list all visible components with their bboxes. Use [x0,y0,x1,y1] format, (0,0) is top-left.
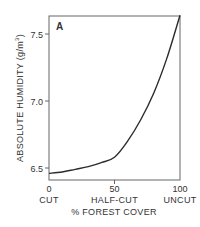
y-axis-label-close: ) [15,34,25,37]
y-tick-label: 7.0 [30,97,43,107]
x-axis-ticks: 0CUT50HALF-CUT100UNCUT [39,180,196,205]
plot-frame [49,16,180,180]
y-axis-ticks: 6.57.07.5 [30,30,49,174]
y-axis-label: ABSOLUTE HUMIDITY (g/m3) [14,34,25,162]
y-axis-label-main: ABSOLUTE HUMIDITY (g/m [15,41,25,162]
x-tick-sublabel: CUT [39,195,59,205]
x-tick-sublabel: HALF-CUT [91,195,138,205]
x-tick-sublabel: UNCUT [164,195,197,205]
x-tick-label: 50 [109,184,119,194]
x-tick-label: 0 [46,184,51,194]
humidity-curve [49,15,180,173]
y-tick-label: 7.5 [30,30,43,40]
x-axis-label: % FOREST COVER [71,207,157,217]
chart: A 6.57.07.5 0CUT50HALF-CUT100UNCUT ABSOL… [0,0,200,227]
y-tick-label: 6.5 [30,164,43,174]
x-tick-label: 100 [172,184,187,194]
panel-label: A [56,21,63,32]
